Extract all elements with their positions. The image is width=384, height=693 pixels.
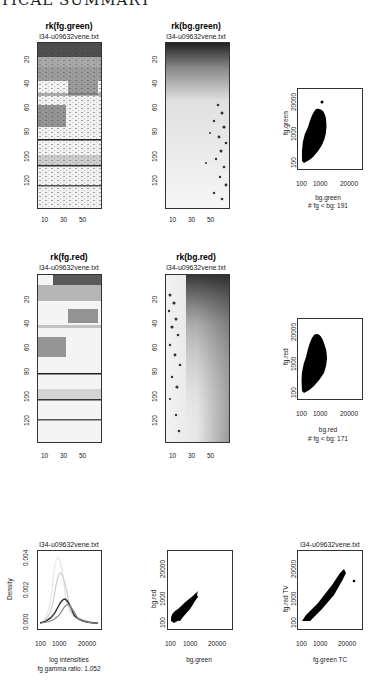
- x-tick-label: 1000: [313, 410, 327, 417]
- y-tick-label: 0.000: [22, 614, 29, 630]
- y-tick-label: 1000: [290, 592, 297, 606]
- y-tick-label: 120: [23, 175, 30, 186]
- x-tick-label: 50: [207, 452, 214, 459]
- plot-title: l34-u09632vene.txt: [270, 541, 384, 548]
- x-tick-label: 30: [188, 216, 195, 223]
- x-tick-label: 100: [296, 180, 307, 187]
- x-tick-label: 20000: [78, 640, 96, 647]
- x-tick-label: 30: [60, 452, 67, 459]
- x-axis-line: [39, 442, 99, 443]
- y-tick-label: 100: [23, 151, 30, 162]
- x-tick-label: 1000: [183, 640, 197, 647]
- page-header: TICAL SUMMARY: [0, 0, 151, 9]
- plot-subtitle: l34-u09632vene.txt: [9, 33, 129, 40]
- fg-lt-bg-count: # fg < bg: 171: [268, 435, 384, 442]
- y-axis-label: Density: [6, 578, 13, 600]
- scatter-plot-area: [297, 88, 363, 170]
- y-tick-label: 80: [151, 128, 158, 135]
- x-tick-label: 30: [60, 216, 67, 223]
- x-tick-label: 100: [35, 640, 46, 647]
- x-tick-label: 20000: [338, 640, 356, 647]
- x-tick-label: 1000: [52, 640, 66, 647]
- plot-subtitle: l34-u09632vene.txt: [136, 264, 256, 271]
- y-tick-label: 120: [23, 415, 30, 426]
- y-tick-label: 100: [159, 617, 166, 628]
- y-tick-label: 40: [151, 320, 158, 327]
- y-tick-label: 100: [290, 617, 297, 628]
- x-tick-label: 1000: [313, 640, 327, 647]
- x-tick-label: 50: [207, 216, 214, 223]
- y-tick-label: 20: [151, 56, 158, 63]
- gamma-ratio: fg gamma ratio: 1.052: [9, 665, 129, 672]
- y-axis-label: fg.green: [282, 111, 289, 135]
- y-tick-label: 80: [23, 128, 30, 135]
- rank-image-fg-green: [37, 42, 102, 209]
- x-axis-line: [167, 208, 227, 209]
- y-tick-label: 20000: [159, 560, 166, 578]
- y-tick-label: 20000: [290, 560, 297, 578]
- y-tick-label: 20000: [290, 323, 297, 341]
- x-tick-label: 20000: [340, 180, 358, 187]
- x-axis-label: log intensities: [9, 656, 129, 663]
- y-tick-label: 60: [23, 104, 30, 111]
- rank-image-bg-red: [165, 274, 230, 443]
- y-tick-label: 120: [151, 415, 158, 426]
- y-tick-label: 100: [23, 391, 30, 402]
- y-tick-label: 1000: [290, 357, 297, 371]
- y-tick-label: 1000: [159, 592, 166, 606]
- density-plot-area: [37, 550, 102, 630]
- y-tick-label: 100: [290, 387, 297, 398]
- y-tick-label: 40: [151, 80, 158, 87]
- y-tick-label: 20: [23, 296, 30, 303]
- y-tick-label: 20: [23, 56, 30, 63]
- scatter-plot-area: [167, 550, 233, 630]
- x-axis-label: bg.green: [139, 656, 259, 663]
- x-tick-label: 10: [169, 216, 176, 223]
- x-tick-label: 20000: [340, 410, 358, 417]
- x-tick-label: 1000: [313, 180, 327, 187]
- y-tick-label: 60: [151, 344, 158, 351]
- plot-subtitle: l34-u09632vene.txt: [9, 264, 129, 271]
- x-axis-line: [167, 442, 227, 443]
- scatter-plot-area: [297, 550, 363, 630]
- x-tick-label: 50: [79, 216, 86, 223]
- x-tick-label: 100: [165, 640, 176, 647]
- x-tick-label: 50: [79, 452, 86, 459]
- x-tick-label: 10: [41, 216, 48, 223]
- y-tick-label: 80: [151, 368, 158, 375]
- y-tick-label: 20: [151, 296, 158, 303]
- y-tick-label: 60: [151, 104, 158, 111]
- plot-subtitle: l34-u09632vene.txt: [136, 33, 256, 40]
- x-tick-label: 10: [169, 452, 176, 459]
- y-tick-label: 100: [290, 157, 297, 168]
- plot-title: l34-u09632vene.txt: [9, 541, 129, 548]
- x-axis-line: [39, 208, 99, 209]
- x-axis-label: bg.green: [268, 194, 384, 201]
- x-tick-label: 10: [41, 452, 48, 459]
- rank-image-bg-green: [165, 42, 230, 209]
- y-tick-label: 0.004: [22, 550, 29, 566]
- plot-title: rk(fg.green): [9, 21, 129, 31]
- y-axis-label: bg.red: [150, 590, 157, 608]
- y-tick-label: 20000: [290, 93, 297, 111]
- y-tick-label: 40: [23, 320, 30, 327]
- y-tick-label: 40: [23, 80, 30, 87]
- x-tick-label: 20000: [208, 640, 226, 647]
- y-tick-label: 100: [151, 391, 158, 402]
- plot-title: rk(bg.red): [136, 252, 256, 262]
- y-tick-label: 1000: [290, 127, 297, 141]
- y-tick-label: 0.002: [22, 582, 29, 598]
- y-tick-label: 80: [23, 368, 30, 375]
- y-tick-label: 60: [23, 344, 30, 351]
- plot-title: rk(fg.red): [9, 252, 129, 262]
- y-axis-label: fg.red: [282, 348, 289, 365]
- y-tick-label: 100: [151, 151, 158, 162]
- plot-title: rk(bg.green): [136, 21, 256, 31]
- x-tick-label: 100: [296, 410, 307, 417]
- scatter-plot-area: [297, 318, 363, 400]
- rank-image-fg-red: [37, 274, 102, 443]
- fg-lt-bg-count: # fg < bg: 191: [268, 202, 384, 209]
- x-axis-label: bg.red: [268, 426, 384, 433]
- y-axis-label: fg.red TV: [282, 585, 289, 612]
- x-axis-label: fg.green TC: [270, 656, 384, 663]
